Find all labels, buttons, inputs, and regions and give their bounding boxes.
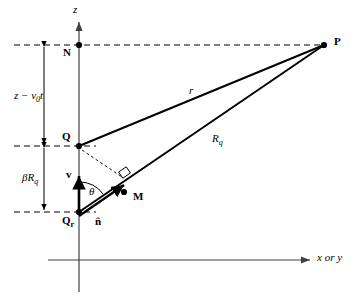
- dimension-label-lower-subscript: q: [34, 177, 38, 186]
- segment-label-Rq-base: R: [212, 132, 219, 144]
- point-label-N: N: [63, 47, 71, 58]
- right-angle-marker: [119, 167, 131, 178]
- point-label-Qr: Qr: [62, 215, 74, 229]
- normal-vector-label: n̂: [95, 216, 101, 227]
- z-axis-label: z: [73, 4, 77, 15]
- normal-vector: [79, 185, 124, 216]
- point-label-Qr-base: Q: [62, 214, 71, 226]
- diagram-canvas: [0, 0, 359, 298]
- point-N-dot: [76, 42, 82, 48]
- perpendicular-drop: [82, 150, 130, 178]
- velocity-vector-label: v: [66, 169, 72, 180]
- point-Qr-dot: [76, 209, 82, 215]
- point-label-Qr-subscript: r: [71, 220, 75, 229]
- segment-r: [79, 45, 324, 146]
- dimension-label-upper-base: z − v: [14, 89, 36, 101]
- x-or-y-axis-label: x or y: [317, 252, 342, 263]
- normal-vector-arrow: [79, 185, 124, 216]
- segment-label-Rq-subscript: q: [219, 138, 223, 147]
- physics-diagram: z x or y N Q Qr M P r Rq z − v0t βRq v n…: [0, 0, 359, 298]
- point-label-Q: Q: [62, 131, 71, 142]
- point-label-M: M: [133, 191, 143, 202]
- point-Q-dot: [76, 143, 82, 149]
- segment-label-Rq: Rq: [212, 133, 223, 147]
- angle-theta-label: θ: [89, 186, 94, 197]
- dimension-label-lower: βRq: [22, 172, 38, 186]
- segment-Rq: [79, 45, 324, 212]
- dimension-label-upper: z − v0t: [14, 90, 43, 104]
- dashed-perpendicular-QM: [82, 150, 122, 177]
- segment-label-r: r: [189, 85, 193, 96]
- point-label-P: P: [334, 36, 341, 47]
- dimension-label-upper-tail: t: [40, 89, 43, 101]
- construction-lines: [79, 45, 324, 212]
- dimension-label-lower-base: βR: [22, 171, 34, 183]
- point-M-dot: [121, 189, 127, 195]
- point-P-dot: [321, 42, 327, 48]
- dashed-reference-lines: [14, 45, 322, 212]
